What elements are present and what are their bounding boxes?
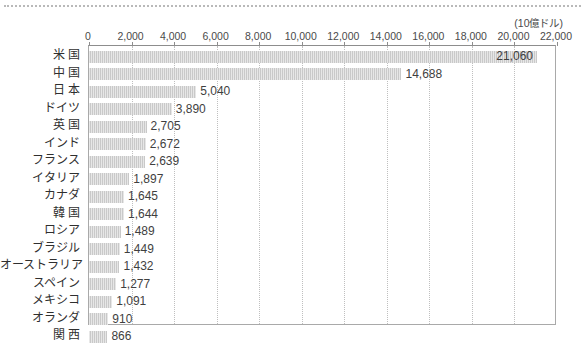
bar-rows: 21,06014,6885,0403,8902,7052,6722,6391,8… — [89, 46, 555, 324]
bar-row: 1,432 — [89, 258, 555, 276]
bar-value-label: 1,449 — [124, 241, 154, 258]
x-tick-label: 4,000 — [160, 30, 186, 43]
bar-value-label: 2,639 — [149, 153, 179, 170]
bar — [89, 103, 172, 115]
bar-value-label: 1,489 — [125, 223, 155, 240]
bar — [89, 278, 116, 290]
category-label: イタリア — [0, 170, 84, 188]
bar-value-label: 1,645 — [128, 188, 158, 205]
axis-unit-label: (10億ドル) — [514, 15, 563, 30]
x-axis-tick-labels: 02,0004,0006,0008,00010,00012,00014,0001… — [0, 30, 585, 44]
bar — [89, 156, 145, 168]
plot-inner: 21,06014,6885,0403,8902,7052,6722,6391,8… — [89, 46, 555, 324]
category-label: メキシコ — [0, 292, 84, 310]
bar — [89, 191, 124, 203]
bar-value-label: 3,890 — [176, 101, 206, 118]
x-tick-label: 16,000 — [412, 30, 444, 43]
x-tick-label: 2,000 — [117, 30, 143, 43]
bar — [89, 68, 401, 80]
category-label: オーストラリア — [0, 257, 84, 275]
category-label: ブラジル — [0, 240, 84, 258]
bar — [89, 138, 146, 150]
bar-row: 1,091 — [89, 293, 555, 311]
bar — [89, 121, 147, 133]
category-label: インド — [0, 135, 84, 153]
x-tick-label: 14,000 — [370, 30, 402, 43]
bar-row: 2,672 — [89, 136, 555, 154]
x-tick-mark — [557, 42, 558, 46]
x-tick-label: 10,000 — [285, 30, 317, 43]
plot-area: 21,06014,6885,0403,8902,7052,6722,6391,8… — [88, 45, 556, 325]
bar-value-label: 1,644 — [128, 206, 158, 223]
category-label: スペイン — [0, 275, 84, 293]
bar-row: 1,644 — [89, 206, 555, 224]
bar — [89, 313, 108, 325]
bar — [89, 261, 119, 273]
category-label: 日 本 — [0, 82, 84, 100]
bar-row: 866 — [89, 328, 555, 346]
bar-row: 14,688 — [89, 66, 555, 84]
x-tick-label: 0 — [85, 30, 91, 43]
bar-row: 1,645 — [89, 188, 555, 206]
category-label: 英 国 — [0, 117, 84, 135]
bar — [89, 86, 196, 98]
bar-row: 2,639 — [89, 153, 555, 171]
bar-value-label: 1,091 — [116, 293, 146, 310]
bar-row: 3,890 — [89, 101, 555, 119]
bar-value-label: 21,060 — [496, 48, 535, 65]
bar-row: 1,897 — [89, 171, 555, 189]
category-label: 中 国 — [0, 65, 84, 83]
category-label: 韓 国 — [0, 205, 84, 223]
bar — [89, 331, 107, 343]
category-label: フランス — [0, 152, 84, 170]
bar-value-label: 1,897 — [133, 171, 163, 188]
bar-row: 2,705 — [89, 118, 555, 136]
x-tick-label: 12,000 — [327, 30, 359, 43]
category-label: ロシア — [0, 222, 84, 240]
bar — [89, 296, 112, 308]
bar-value-label: 1,432 — [123, 258, 153, 275]
bar — [89, 173, 129, 185]
bar-row: 5,040 — [89, 83, 555, 101]
bar-row: 1,277 — [89, 276, 555, 294]
bar-row: 910 — [89, 311, 555, 329]
bar-value-label: 1,277 — [120, 276, 150, 293]
bar-row: 1,449 — [89, 241, 555, 259]
category-label: 米 国 — [0, 47, 84, 65]
bar-row: 1,489 — [89, 223, 555, 241]
bar-value-label: 2,672 — [150, 136, 180, 153]
x-tick-label: 8,000 — [245, 30, 271, 43]
x-tick-label: 22,000 — [540, 30, 572, 43]
bar-value-label: 866 — [111, 328, 131, 345]
category-label: ドイツ — [0, 100, 84, 118]
bar-value-label: 910 — [112, 311, 132, 328]
bar-row: 21,060 — [89, 48, 555, 66]
bar — [89, 208, 124, 220]
x-tick-label: 6,000 — [202, 30, 228, 43]
bar — [89, 51, 537, 63]
y-axis-category-labels: 米 国中 国日 本ドイツ英 国インドフランスイタリアカナダ韓 国ロシアブラジルオ… — [0, 45, 84, 325]
bar — [89, 226, 121, 238]
bar — [89, 243, 120, 255]
x-tick-label: 18,000 — [455, 30, 487, 43]
bar-value-label: 5,040 — [200, 83, 230, 100]
category-label: 関 西 — [0, 327, 84, 345]
top-dotted-rule — [4, 5, 581, 7]
bar-value-label: 2,705 — [151, 118, 181, 135]
bar-value-label: 14,688 — [405, 66, 442, 83]
category-label: オランダ — [0, 310, 84, 328]
category-label: カナダ — [0, 187, 84, 205]
x-tick-label: 20,000 — [497, 30, 529, 43]
